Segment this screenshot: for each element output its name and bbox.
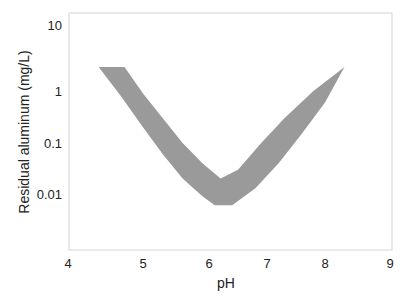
x-tick-7: 7 — [263, 256, 270, 271]
chart: 10 1 0.1 0.01 4 5 6 7 8 9 pH Residual al… — [0, 0, 414, 298]
x-tick-labels: 4 5 6 7 8 9 — [64, 256, 393, 271]
y-tick-labels: 10 1 0.1 0.01 — [37, 18, 62, 202]
x-tick-8: 8 — [321, 256, 328, 271]
y-tick-1: 1 — [55, 84, 62, 99]
x-tick-4: 4 — [64, 256, 71, 271]
plot-frame — [69, 13, 392, 250]
y-tick-0.1: 0.1 — [44, 136, 62, 151]
x-tick-6: 6 — [205, 256, 212, 271]
x-axis-label: pH — [217, 275, 235, 291]
x-tick-5: 5 — [139, 256, 146, 271]
y-tick-0.01: 0.01 — [37, 187, 62, 202]
y-axis-label: Residual aluminum (mg/L) — [16, 50, 32, 213]
x-tick-9: 9 — [386, 256, 393, 271]
y-tick-10: 10 — [48, 18, 62, 33]
